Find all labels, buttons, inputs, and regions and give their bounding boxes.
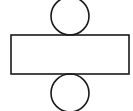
lateral-surface-rectangle — [11, 35, 129, 74]
top-circle-face — [51, 0, 89, 35]
bottom-circle-face — [51, 74, 89, 111]
cylinder-net-diagram — [0, 0, 133, 111]
